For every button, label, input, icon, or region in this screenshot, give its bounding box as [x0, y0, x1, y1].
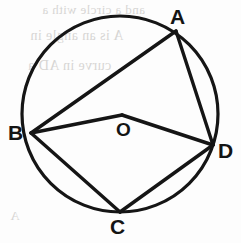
geometry-figure: and a circle with a A is an angle in cur… — [0, 0, 241, 243]
vertex-label-c: C — [110, 216, 125, 237]
segment-OD — [122, 115, 213, 145]
vertex-label-a: A — [170, 6, 185, 27]
vertex-label-d: D — [218, 140, 233, 161]
vertex-label-b: B — [8, 122, 23, 143]
center-label-o: O — [116, 120, 131, 139]
